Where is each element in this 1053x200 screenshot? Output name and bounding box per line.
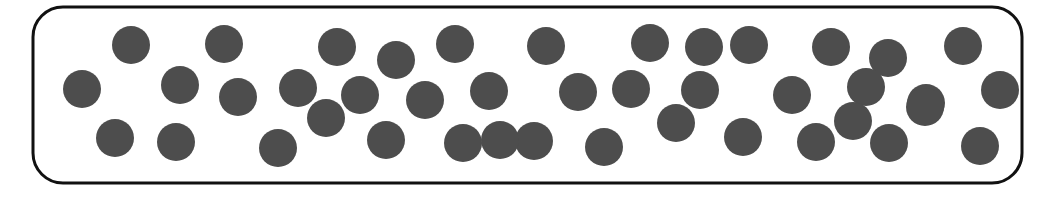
particle-circle — [63, 70, 101, 108]
particle-circle — [157, 123, 195, 161]
particle-circle — [515, 122, 553, 160]
particle-diagram-figure — [0, 0, 1053, 200]
particle-circle — [847, 68, 885, 106]
particle-circle — [870, 124, 908, 162]
particle-circle — [406, 81, 444, 119]
particle-diagram-canvas — [0, 0, 1053, 200]
particle-circle — [527, 27, 565, 65]
particle-circle — [585, 128, 623, 166]
particle-circle — [96, 119, 134, 157]
particle-circle — [219, 78, 257, 116]
particle-circle — [377, 41, 415, 79]
particle-circle — [161, 66, 199, 104]
particle-circle — [812, 28, 850, 66]
particle-circle — [657, 104, 695, 142]
particle-circle — [436, 25, 474, 63]
particle-circle — [259, 129, 297, 167]
particle-circle — [724, 118, 762, 156]
particle-circle — [470, 72, 508, 110]
particle-circle — [205, 25, 243, 63]
particle-circle — [685, 28, 723, 66]
particle-circle — [307, 99, 345, 137]
particle-circle — [341, 76, 379, 114]
particle-circle — [559, 73, 597, 111]
particle-circle — [773, 76, 811, 114]
particle-circle — [612, 70, 650, 108]
particle-circle — [631, 24, 669, 62]
particle-circle — [318, 28, 356, 66]
particle-circle — [906, 88, 944, 126]
particle-circle — [730, 26, 768, 64]
particle-circle — [681, 71, 719, 109]
particle-circle — [944, 27, 982, 65]
particle-circle — [961, 127, 999, 165]
particle-circle — [367, 121, 405, 159]
particle-circle — [981, 71, 1019, 109]
particle-circle — [444, 124, 482, 162]
particle-circle — [112, 26, 150, 64]
particle-circle — [834, 102, 872, 140]
particle-circle — [797, 123, 835, 161]
particle-circle — [279, 69, 317, 107]
particle-circle — [481, 121, 519, 159]
